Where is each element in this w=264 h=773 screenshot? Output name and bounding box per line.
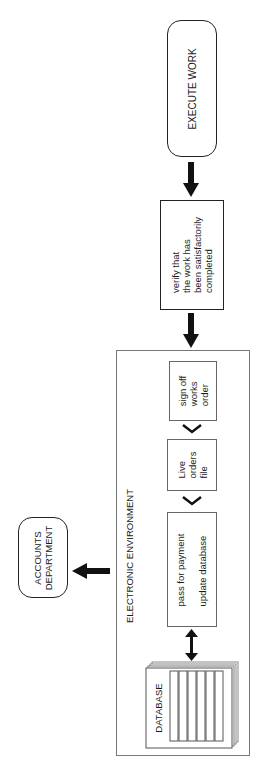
connectors-layer bbox=[0, 0, 264, 773]
chevron-live-to-pass bbox=[183, 497, 201, 504]
arrow-environment-to-accounts bbox=[72, 563, 110, 579]
database-label: DATABASE bbox=[153, 683, 164, 732]
database-node: DATABASE bbox=[148, 670, 168, 746]
chevron-signoff-to-live bbox=[183, 425, 201, 432]
database-columns bbox=[170, 671, 223, 741]
arrow-execute-to-verify bbox=[183, 162, 199, 197]
double-arrow-pass-database bbox=[185, 629, 198, 661]
arrow-verify-to-environment bbox=[183, 313, 199, 348]
